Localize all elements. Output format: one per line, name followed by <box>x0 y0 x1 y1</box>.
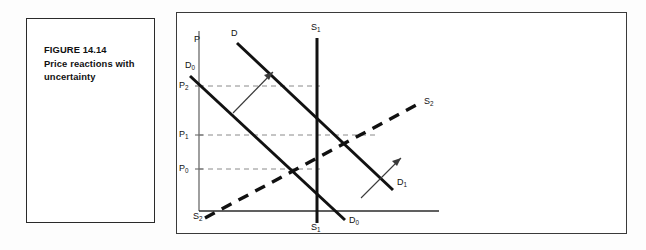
curve-label-d0-left: D0 <box>185 61 195 70</box>
curve-label-d1-right-sub: 1 <box>404 181 408 188</box>
curve-label-s2-right: S2 <box>424 97 434 106</box>
curve-label-d1-right-base: D <box>397 177 404 187</box>
curve-label-s1-top-sub: 1 <box>317 26 321 33</box>
curve-d0 <box>190 76 345 220</box>
curve-label-d0-right: D0 <box>349 216 359 225</box>
tick-label-p1: P1 <box>179 130 189 139</box>
tick-label-p0-sub: 0 <box>185 167 189 174</box>
curve-label-d0-left-base: D <box>185 60 192 70</box>
curve-label-d0-right-base: D <box>349 215 356 225</box>
tick-label-p2: P2 <box>179 81 189 90</box>
curve-label-d0-left-sub: 0 <box>192 64 196 71</box>
tick-label-p1-sub: 1 <box>185 133 189 140</box>
tick-label-p0: P0 <box>179 164 189 173</box>
curve-label-d: D <box>231 29 238 38</box>
figure-number: FIGURE 14.14 <box>44 43 152 56</box>
figure-page: FIGURE 14.14 Price reactions with uncert… <box>0 0 646 250</box>
curve-label-d1-right: D1 <box>397 178 407 187</box>
curve-label-s1-bottom-sub: 1 <box>317 226 321 233</box>
curve-label-s2-left-sub: 2 <box>199 215 203 222</box>
plot-svg <box>177 13 628 235</box>
curve-label-s2-left: S2 <box>193 212 203 221</box>
curve-label-d0-right-sub: 0 <box>356 219 360 226</box>
tick-label-p2-sub: 2 <box>185 84 189 91</box>
curve-label-s1-top: S1 <box>311 23 321 32</box>
figure-caption-box: FIGURE 14.14 Price reactions with uncert… <box>26 18 155 223</box>
figure-caption-text: FIGURE 14.14 Price reactions with uncert… <box>44 43 152 83</box>
supply-demand-plot: P D D0 S1 S1 S2 S2 D1 D0 <box>177 13 628 235</box>
curve-label-s1-bottom: S1 <box>311 223 321 232</box>
shift-arrow-upper <box>233 72 273 113</box>
curve-label-s2-right-sub: 2 <box>430 100 434 107</box>
axis-label-p: P <box>194 35 200 44</box>
chart-frame: P D D0 S1 S1 S2 S2 D1 D0 <box>176 12 627 234</box>
figure-title: Price reactions with uncertainty <box>44 58 152 83</box>
curve-d-d1 <box>237 43 393 190</box>
